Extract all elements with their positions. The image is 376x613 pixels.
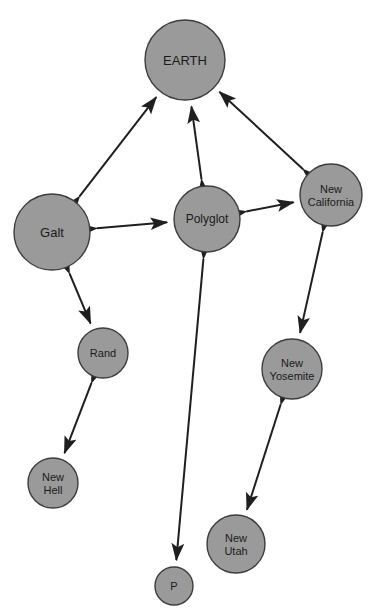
node-circle[interactable] xyxy=(14,194,90,270)
node-circle[interactable] xyxy=(78,328,128,378)
graph-edge xyxy=(69,273,90,323)
graph-edge xyxy=(64,383,91,453)
node-circle[interactable] xyxy=(300,164,362,226)
graph-edge xyxy=(300,232,323,333)
graph-node-new-hell[interactable]: NewHell xyxy=(28,458,78,508)
graph-edge xyxy=(97,222,167,228)
node-circle[interactable] xyxy=(145,20,225,100)
graph-edge xyxy=(220,92,304,169)
node-circle[interactable] xyxy=(28,458,78,508)
graph-edge xyxy=(176,259,203,560)
graph-svg: EARTHGaltPolyglotNewCaliforniaRandNewYos… xyxy=(0,0,376,613)
graph-edge xyxy=(246,202,293,211)
node-circle[interactable] xyxy=(207,515,265,573)
graph-node-p[interactable]: P xyxy=(155,567,193,605)
node-circle[interactable] xyxy=(262,339,322,399)
node-circle[interactable] xyxy=(174,186,240,252)
graph-node-new-california[interactable]: NewCalifornia xyxy=(300,164,362,226)
graph-node-earth[interactable]: EARTH xyxy=(145,20,225,100)
edge-layer xyxy=(64,92,322,560)
graph-node-polyglot[interactable]: Polyglot xyxy=(174,186,240,252)
graph-node-rand[interactable]: Rand xyxy=(78,328,128,378)
graph-node-new-yosemite[interactable]: NewYosemite xyxy=(262,339,322,399)
graph-edge xyxy=(80,97,157,196)
graph-node-galt[interactable]: Galt xyxy=(14,194,90,270)
graph-node-new-utah[interactable]: NewUtah xyxy=(207,515,265,573)
node-layer: EARTHGaltPolyglotNewCaliforniaRandNewYos… xyxy=(14,20,362,605)
graph-edge xyxy=(191,107,201,180)
graph-edge xyxy=(247,404,281,509)
network-diagram-canvas: EARTHGaltPolyglotNewCaliforniaRandNewYos… xyxy=(0,0,376,613)
node-circle[interactable] xyxy=(155,567,193,605)
